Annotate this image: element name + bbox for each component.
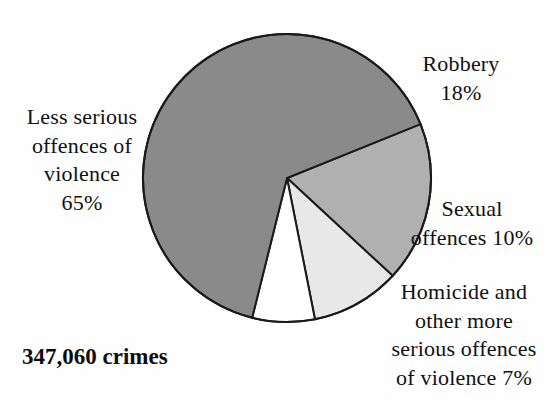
slice-label-line: Less serious [2, 103, 162, 132]
slice-label-sexual-offences: Sexual offences 10% [396, 195, 548, 252]
slice-label-value: 18% [386, 79, 536, 108]
slice-label-value: 65% [2, 189, 162, 218]
slice-label-line: Robbery [386, 50, 536, 79]
slice-label-line: other more [378, 307, 550, 336]
slice-label-line: serious offences [378, 335, 550, 364]
total-crimes-caption: 347,060 crimes [22, 344, 168, 370]
slice-label-line: Sexual [396, 195, 548, 224]
slice-label-line: Homicide and [378, 278, 550, 307]
slice-label-value: offences 10% [396, 224, 548, 253]
slice-label-less-serious-offences-of-violence: Less serious offences of violence 65% [2, 103, 162, 217]
slice-label-value: of violence 7% [378, 364, 550, 393]
slice-label-robbery: Robbery 18% [386, 50, 536, 107]
slice-label-line: violence [2, 160, 162, 189]
pie-chart-figure: Less serious offences of violence 65% Ro… [0, 0, 551, 411]
slice-label-homicide-and-other-more-serious-offences: Homicide and other more serious offences… [378, 278, 550, 392]
slice-label-line: offences of [2, 132, 162, 161]
